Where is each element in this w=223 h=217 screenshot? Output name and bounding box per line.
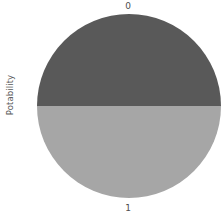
pie-slice-label-1: 1 [108,203,148,214]
y-axis-label: Potability [3,67,17,123]
pie-slice-0[interactable] [37,14,221,106]
pie-slice-label-0: 0 [108,1,148,12]
pie-chart [37,14,221,198]
pie-slice-1[interactable] [37,106,221,198]
pie-circle [37,14,221,198]
pie-chart-figure: Potability 0 1 [0,0,223,217]
